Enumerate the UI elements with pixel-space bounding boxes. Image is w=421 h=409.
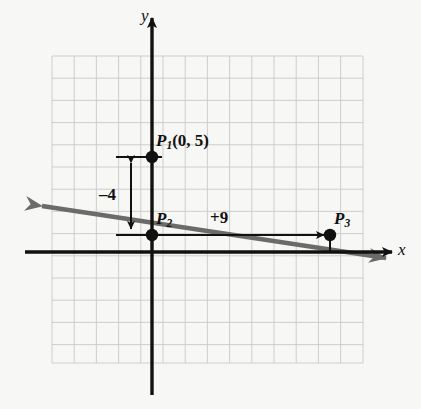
point-p3 [324, 229, 336, 241]
y-axis-label: y [141, 6, 149, 26]
point-label-p3: P3 [334, 209, 350, 230]
point-p2 [146, 229, 158, 241]
point-label-p2: P2 [156, 209, 172, 230]
run-label: +9 [210, 208, 228, 228]
x-axis-label: x [398, 240, 406, 260]
grid-lines [52, 56, 363, 363]
axis-lines [25, 18, 392, 395]
rise-label: –4 [99, 185, 116, 205]
point-p1 [146, 151, 158, 163]
coordinate-plane-figure [0, 0, 421, 409]
point-label-p1: P1(0, 5) [156, 131, 209, 152]
